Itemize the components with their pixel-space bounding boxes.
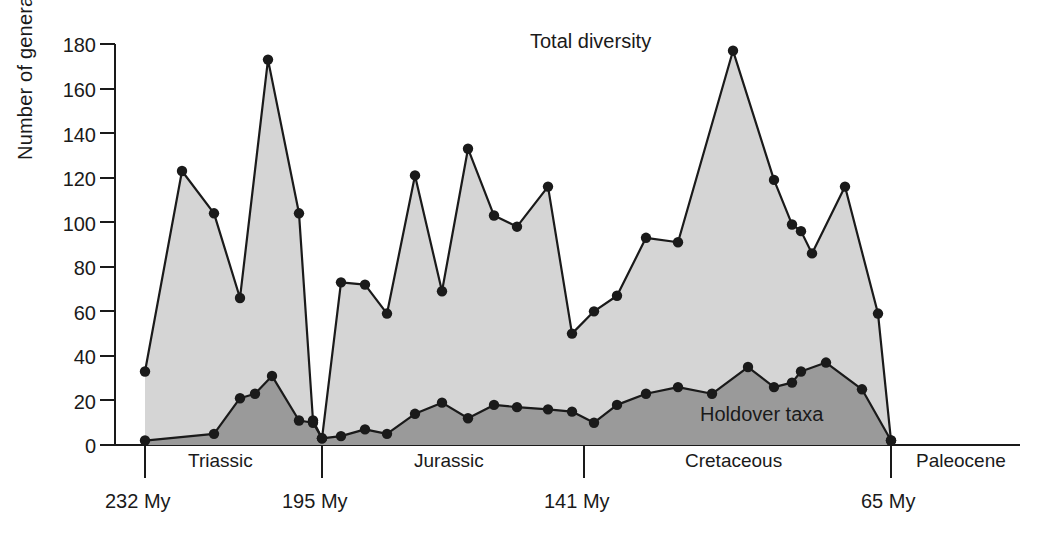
holdover-taxa-point (235, 393, 245, 403)
total-diversity-point (382, 308, 392, 318)
period-label-triassic: Triassic (188, 450, 253, 472)
series-label-total-diversity: Total diversity (530, 30, 651, 53)
plot-area (0, 0, 1059, 541)
total-diversity-point (641, 233, 651, 243)
holdover-taxa-point (489, 400, 499, 410)
holdover-taxa-point (382, 429, 392, 439)
total-diversity-point (360, 279, 370, 289)
holdover-taxa-point (437, 397, 447, 407)
total-diversity-point (294, 208, 304, 218)
total-diversity-point (512, 221, 522, 231)
holdover-taxa-point (317, 433, 327, 443)
total-diversity-point (589, 306, 599, 316)
holdover-taxa-point (209, 429, 219, 439)
holdover-taxa-point (673, 382, 683, 392)
holdover-taxa-point (743, 362, 753, 372)
holdover-taxa-point (796, 366, 806, 376)
age-label-195my: 195 My (282, 490, 348, 513)
age-label-232my: 232 My (105, 490, 171, 513)
total-diversity-point (873, 308, 883, 318)
holdover-taxa-point (140, 435, 150, 445)
holdover-taxa-point (336, 431, 346, 441)
total-diversity-point (336, 277, 346, 287)
total-diversity-point (807, 248, 817, 258)
total-diversity-point (489, 210, 499, 220)
total-diversity-point (769, 175, 779, 185)
holdover-taxa-point (589, 418, 599, 428)
total-diversity-point (410, 170, 420, 180)
chart-figure: Number of genera 180 160 140 120 100 80 … (0, 0, 1059, 541)
holdover-taxa-point (308, 418, 318, 428)
total-diversity-point (235, 293, 245, 303)
total-diversity-point (437, 286, 447, 296)
period-label-cretaceous: Cretaceous (685, 450, 782, 472)
period-label-paleocene: Paleocene (916, 450, 1006, 472)
holdover-taxa-point (463, 413, 473, 423)
holdover-taxa-point (360, 424, 370, 434)
series-label-holdover-taxa: Holdover taxa (700, 403, 823, 426)
holdover-taxa-point (543, 404, 553, 414)
total-diversity-point (177, 166, 187, 176)
holdover-taxa-point (707, 389, 717, 399)
total-diversity-point (612, 291, 622, 301)
total-diversity-point (140, 366, 150, 376)
total-diversity-point (543, 181, 553, 191)
holdover-taxa-point (886, 435, 896, 445)
holdover-taxa-point (250, 389, 260, 399)
holdover-taxa-point (821, 357, 831, 367)
total-diversity-point (728, 45, 738, 55)
holdover-taxa-point (267, 371, 277, 381)
holdover-taxa-point (857, 384, 867, 394)
total-diversity-point (796, 226, 806, 236)
data-series-layer (140, 45, 896, 445)
age-label-141my: 141 My (544, 490, 610, 513)
holdover-taxa-point (769, 382, 779, 392)
total-diversity-point (840, 181, 850, 191)
holdover-taxa-point (410, 409, 420, 419)
holdover-taxa-point (512, 402, 522, 412)
age-label-65my: 65 My (861, 490, 915, 513)
total-diversity-point (567, 328, 577, 338)
period-label-jurassic: Jurassic (414, 450, 484, 472)
holdover-taxa-point (641, 389, 651, 399)
holdover-taxa-point (787, 377, 797, 387)
total-diversity-point (209, 208, 219, 218)
holdover-taxa-point (294, 415, 304, 425)
total-diversity-point (263, 54, 273, 64)
total-diversity-point (787, 219, 797, 229)
total-diversity-point (673, 237, 683, 247)
holdover-taxa-point (567, 406, 577, 416)
holdover-taxa-point (612, 400, 622, 410)
total-diversity-point (463, 144, 473, 154)
